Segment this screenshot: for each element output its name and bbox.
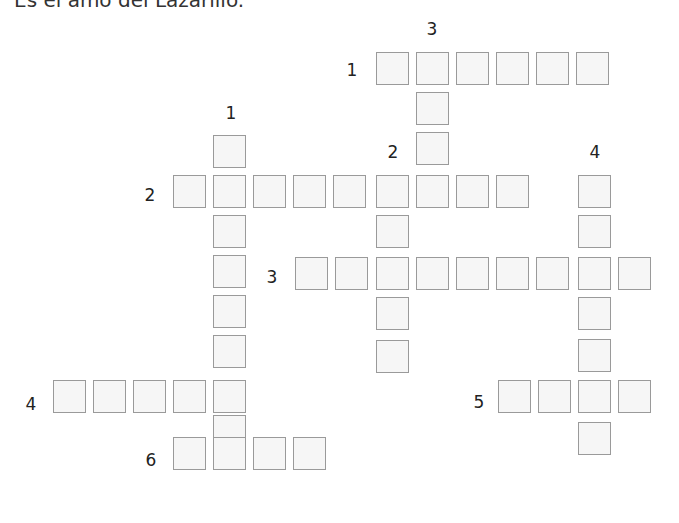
crossword-cell-across-5-3[interactable]	[578, 380, 611, 413]
clue-number-across-3: 3	[267, 267, 278, 287]
crossword-cell-across-1-6[interactable]	[576, 52, 609, 85]
crossword-cell-down-2-1[interactable]	[376, 215, 409, 248]
crossword-grid: 3112423456	[0, 0, 679, 523]
clue-number-down-2: 2	[388, 142, 399, 162]
crossword-cell-across-6-1[interactable]	[173, 437, 206, 470]
crossword-cell-down-4-2[interactable]	[578, 215, 611, 248]
crossword-cell-across-1-2[interactable]	[416, 52, 449, 85]
crossword-cell-across-2-4[interactable]	[293, 175, 326, 208]
crossword-cell-across-6-2[interactable]	[213, 437, 246, 470]
crossword-cell-across-2-9[interactable]	[496, 175, 529, 208]
clue-number-across-4: 4	[26, 394, 37, 414]
crossword-cell-down-4-4[interactable]	[578, 339, 611, 372]
crossword-cell-down-1-2[interactable]	[213, 215, 246, 248]
crossword-cell-across-5-1[interactable]	[498, 380, 531, 413]
crossword-cell-down-1-5[interactable]	[213, 335, 246, 368]
crossword-cell-across-3-2[interactable]	[335, 257, 368, 290]
crossword-cell-across-3-7[interactable]	[536, 257, 569, 290]
clue-number-across-2: 2	[145, 185, 156, 205]
crossword-cell-across-3-5[interactable]	[456, 257, 489, 290]
crossword-cell-across-4-5[interactable]	[213, 380, 246, 413]
clue-number-across-1: 1	[347, 60, 358, 80]
crossword-cell-down-2-3[interactable]	[376, 340, 409, 373]
crossword-cell-across-2-7[interactable]	[416, 175, 449, 208]
crossword-cell-down-1-4[interactable]	[213, 295, 246, 328]
clue-number-down-3: 3	[427, 19, 438, 39]
clue-number-across-5: 5	[474, 392, 485, 412]
crossword-cell-across-4-4[interactable]	[173, 380, 206, 413]
clue-number-down-1: 1	[226, 103, 237, 123]
crossword-cell-across-3-3[interactable]	[376, 257, 409, 290]
crossword-cell-across-4-1[interactable]	[53, 380, 86, 413]
clue-number-down-4: 4	[590, 142, 601, 162]
crossword-cell-across-1-4[interactable]	[496, 52, 529, 85]
crossword-cell-across-5-4[interactable]	[618, 380, 651, 413]
crossword-cell-across-1-3[interactable]	[456, 52, 489, 85]
crossword-cell-across-2-8[interactable]	[456, 175, 489, 208]
crossword-cell-across-3-9[interactable]	[618, 257, 651, 290]
crossword-cell-down-1-1[interactable]	[213, 135, 246, 168]
crossword-cell-across-3-4[interactable]	[416, 257, 449, 290]
clue-number-across-6: 6	[146, 450, 157, 470]
crossword-cell-across-2-2[interactable]	[213, 175, 246, 208]
crossword-cell-across-1-5[interactable]	[536, 52, 569, 85]
crossword-cell-across-1-1[interactable]	[376, 52, 409, 85]
crossword-cell-down-4-1[interactable]	[578, 175, 611, 208]
crossword-cell-across-3-8[interactable]	[578, 257, 611, 290]
crossword-cell-across-2-1[interactable]	[173, 175, 206, 208]
crossword-cell-down-1-3[interactable]	[213, 255, 246, 288]
crossword-cell-across-3-6[interactable]	[496, 257, 529, 290]
crossword-cell-across-5-2[interactable]	[538, 380, 571, 413]
crossword-cell-across-6-3[interactable]	[253, 437, 286, 470]
crossword-cell-down-4-3[interactable]	[578, 297, 611, 330]
crossword-cell-across-6-4[interactable]	[293, 437, 326, 470]
crossword-cell-across-2-6[interactable]	[376, 175, 409, 208]
crossword-cell-across-2-5[interactable]	[333, 175, 366, 208]
crossword-cell-down-2-2[interactable]	[376, 297, 409, 330]
crossword-cell-down-3-2[interactable]	[416, 132, 449, 165]
crossword-cell-across-4-2[interactable]	[93, 380, 126, 413]
crossword-cell-across-4-3[interactable]	[133, 380, 166, 413]
crossword-cell-down-4-5[interactable]	[578, 422, 611, 455]
crossword-cell-down-3-1[interactable]	[416, 92, 449, 125]
crossword-cell-across-3-1[interactable]	[295, 257, 328, 290]
crossword-cell-across-2-3[interactable]	[253, 175, 286, 208]
